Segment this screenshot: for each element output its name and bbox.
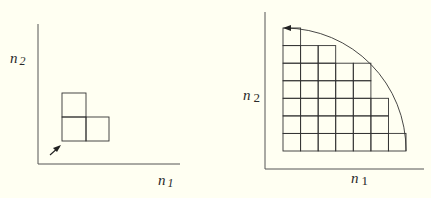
cell [301, 98, 319, 116]
cell [283, 116, 301, 134]
cell [353, 63, 371, 81]
left-x-label: n1 [158, 172, 174, 190]
cell [318, 46, 336, 64]
cell [353, 98, 371, 116]
cell [301, 133, 319, 151]
cell [318, 116, 336, 134]
cell [336, 63, 354, 81]
cell [283, 133, 301, 151]
right-y-label: n2 [243, 87, 260, 105]
cell [283, 46, 301, 64]
cell [336, 116, 354, 134]
cell [318, 98, 336, 116]
cell [336, 98, 354, 116]
cell [62, 117, 86, 141]
right-cells [283, 28, 406, 151]
diagram-canvas: n2 n1 n2 n1 [0, 0, 431, 198]
cell [301, 116, 319, 134]
cell [283, 28, 301, 46]
cell [336, 81, 354, 99]
cell [371, 133, 389, 151]
left-cells [62, 93, 109, 141]
cell [283, 81, 301, 99]
cell [301, 63, 319, 81]
cell [301, 81, 319, 99]
cell [318, 81, 336, 99]
left-figure: n2 n1 [10, 24, 180, 190]
arrowhead-icon [283, 25, 291, 31]
cell [318, 133, 336, 151]
left-y-label: n2 [10, 50, 26, 68]
cell [62, 93, 86, 117]
cell [353, 81, 371, 99]
right-figure: n2 n1 [243, 12, 424, 188]
cell [283, 98, 301, 116]
cell [318, 63, 336, 81]
cell [336, 133, 354, 151]
cell [371, 116, 389, 134]
cell [86, 117, 109, 141]
cell [388, 133, 406, 151]
arrow-icon [50, 145, 61, 155]
right-x-label: n1 [351, 170, 368, 188]
cell [353, 133, 371, 151]
cell [371, 98, 389, 116]
cell [301, 46, 319, 64]
cell [353, 116, 371, 134]
cell [283, 63, 301, 81]
quarter-circle-arc [285, 28, 406, 151]
